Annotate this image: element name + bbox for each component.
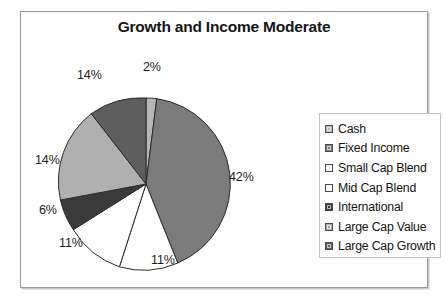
data-label-large-cap-value: 14% <box>35 153 60 167</box>
legend-item-international[interactable]: International <box>325 197 440 217</box>
pie-plot-area: 2% 42% 11% 11% 6% 14% 14% <box>39 60 299 282</box>
legend-label-small-cap-blend: Small Cap Blend <box>338 161 427 175</box>
data-label-international: 6% <box>39 203 57 217</box>
legend-swatch-international <box>325 203 333 211</box>
legend-item-cash[interactable]: Cash <box>325 119 440 139</box>
legend-swatch-fixed-income <box>325 144 333 152</box>
data-label-small-cap-blend: 11% <box>59 236 83 250</box>
legend-item-large-cap-value[interactable]: Large Cap Value <box>325 217 440 237</box>
legend-label-fixed-income: Fixed Income <box>338 141 409 155</box>
legend-item-mid-cap-blend[interactable]: Mid Cap Blend <box>325 178 440 198</box>
legend-item-small-cap-blend[interactable]: Small Cap Blend <box>325 158 440 178</box>
chart-legend: Cash Fixed Income Small Cap Blend Mid Ca… <box>319 113 441 258</box>
legend-label-large-cap-value: Large Cap Value <box>338 220 426 234</box>
legend-label-international: International <box>338 200 403 214</box>
data-label-mid-cap-blend: 11% <box>151 253 175 267</box>
legend-item-fixed-income[interactable]: Fixed Income <box>325 139 440 159</box>
legend-swatch-large-cap-value <box>325 223 333 231</box>
data-label-fixed-income: 42% <box>229 170 254 184</box>
legend-item-large-cap-growth[interactable]: Large Cap Growth <box>325 237 440 257</box>
chart-frame: Growth and Income Moderate 2% 42% 11% 11… <box>20 11 428 288</box>
legend-swatch-mid-cap-blend <box>325 184 333 192</box>
legend-swatch-cash <box>325 125 333 133</box>
legend-label-cash: Cash <box>338 122 366 136</box>
data-label-large-cap-growth: 14% <box>77 68 102 82</box>
legend-label-large-cap-growth: Large Cap Growth <box>338 239 435 253</box>
data-label-cash: 2% <box>143 60 161 74</box>
chart-title: Growth and Income Moderate <box>21 18 427 36</box>
legend-label-mid-cap-blend: Mid Cap Blend <box>338 181 416 195</box>
legend-swatch-small-cap-blend <box>325 164 333 172</box>
legend-swatch-large-cap-growth <box>325 242 333 250</box>
